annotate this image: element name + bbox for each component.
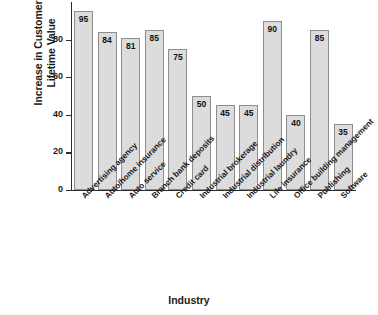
bar-value-label: 40: [287, 118, 304, 128]
bar[interactable]: 95: [74, 11, 93, 190]
y-axis-line: [71, 2, 72, 191]
bar-chart: Increase in Customer Lifetime Value 0204…: [0, 0, 378, 315]
y-tick-label-80: 80: [53, 34, 63, 44]
y-tick-label-0: 0: [58, 184, 63, 194]
bar-value-label: 85: [146, 33, 163, 43]
bar-value-label: 75: [169, 52, 186, 62]
bar-value-label: 45: [240, 108, 257, 118]
bar-value-label: 50: [193, 99, 210, 109]
y-tick-label-60: 60: [53, 71, 63, 81]
bar-value-label: 84: [99, 35, 116, 45]
bar-value-label: 95: [75, 14, 92, 24]
bar-value-label: 81: [122, 41, 139, 51]
y-tick-label-40: 40: [53, 109, 63, 119]
y-tick-40: 40: [66, 115, 71, 116]
y-axis-title-line-1: Increase in Customer: [32, 0, 45, 143]
y-tick-label-20: 20: [53, 146, 63, 156]
bar-value-label: 45: [217, 108, 234, 118]
bar-value-label: 90: [264, 24, 281, 34]
x-axis-title: Industry: [0, 294, 378, 306]
y-tick-0: 0: [66, 190, 71, 191]
y-tick-80: 80: [66, 40, 71, 41]
y-tick-20: 20: [66, 152, 71, 153]
y-tick-60: 60: [66, 77, 71, 78]
bar-value-label: 85: [311, 33, 328, 43]
